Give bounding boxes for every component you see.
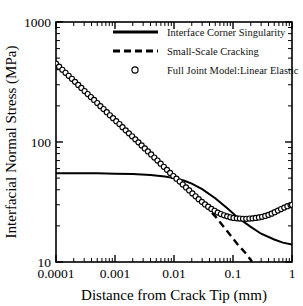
chart-figure: 0.00010.0010.010.11101001000 Interface C…	[0, 0, 303, 306]
x-axis-title: Distance from Crack Tip (mm)	[81, 287, 267, 304]
legend-label: Small-Scale Cracking	[167, 46, 260, 57]
x-tick-label: 0.1	[225, 266, 242, 281]
x-tick-label: 0.001	[100, 266, 130, 281]
chart-canvas: 0.00010.0010.010.11101001000 Interface C…	[0, 0, 303, 306]
y-tick-label: 100	[31, 135, 52, 150]
legend-label: Interface Corner Singularity	[167, 27, 286, 38]
data-point-marker	[289, 202, 294, 207]
legend-label: Full Joint Model:Linear Elastic	[167, 65, 299, 76]
chart-legend: Interface Corner SingularitySmall-Scale …	[113, 27, 299, 76]
series-inner	[53, 61, 294, 262]
y-tick-label: 1000	[24, 15, 51, 30]
series-line-solid	[56, 173, 292, 244]
legend-swatch-circle	[132, 67, 138, 73]
data-series	[53, 61, 294, 262]
plot-frame	[56, 22, 292, 262]
x-tick-label: 0.01	[162, 266, 186, 281]
x-tick-label: 1	[289, 266, 296, 281]
y-axis-title: Interfacial Normal Stress (MPa)	[3, 46, 20, 239]
y-tick-label: 10	[38, 255, 52, 270]
